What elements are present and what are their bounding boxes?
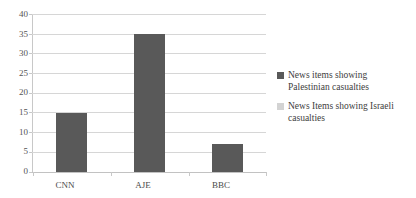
y-tick-label: 0 [4,167,28,176]
x-tick-label-bbc: BBC [212,180,230,190]
y-tick-label: 30 [4,49,28,58]
x-tick-label-cnn: CNN [55,180,74,190]
y-tick-label: 20 [4,88,28,97]
legend-entry-palestinian: News items showing Palestinian casualtie… [277,70,416,93]
y-axis-tick-labels: 40 35 30 25 20 15 10 5 0 [0,0,28,198]
bar-aje-palestinian [134,34,165,172]
legend-swatch-icon [277,103,284,110]
bar-bbc-palestinian [212,144,243,172]
legend-label-line2: casualties [288,113,416,125]
gridline-baseline-0 [32,172,266,173]
x-tickmark [33,172,34,176]
bar-chart: 40 35 30 25 20 15 10 5 0 [0,0,416,198]
x-tickmark [189,172,190,176]
y-tick-label: 5 [4,147,28,156]
bar-cnn-palestinian [56,113,87,172]
y-tick-label: 35 [4,30,28,39]
legend-label-line1: News Items showing Israeli [288,101,416,113]
y-tick-label: 25 [4,69,28,78]
x-tickmark [266,172,267,176]
x-tickmark [111,172,112,176]
bars-layer [32,14,266,172]
legend-swatch-icon [277,72,284,79]
x-tick-label-aje: AJE [135,180,151,190]
legend-label-line1: News items showing [288,70,416,82]
y-tick-label: 10 [4,128,28,137]
chart-title [0,0,290,1]
y-tick-label: 40 [4,10,28,19]
chart-legend: News items showing Palestinian casualtie… [277,70,416,132]
y-tick-label: 15 [4,108,28,117]
legend-entry-israeli: News Items showing Israeli casualties [277,101,416,124]
legend-label-line2: Palestinian casualties [288,82,416,94]
